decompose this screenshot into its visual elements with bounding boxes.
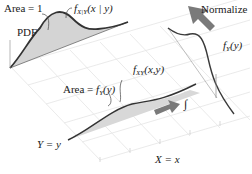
joint-pdf-diagram: Area = 1 PDF fX|Y(x | y) Normalize fY(y)…	[0, 0, 252, 174]
normalize-label: Normalize	[201, 4, 247, 15]
area-marginal-label: Area = fY(y)	[63, 84, 115, 97]
joint-pdf-label: fXY(x,y)	[133, 64, 164, 77]
x-axis-label: X = x	[155, 154, 180, 165]
marginal-label: fY(y)	[223, 40, 242, 53]
conditional-pdf-curve	[10, 12, 128, 68]
area-one-label: Area = 1	[4, 3, 43, 14]
integral-symbol: ∫	[184, 98, 187, 110]
y-axis-label: Y = y	[37, 139, 61, 150]
conditional-pdf-label: fX|Y(x | y)	[74, 3, 113, 16]
pdf-label: PDF	[17, 27, 37, 38]
